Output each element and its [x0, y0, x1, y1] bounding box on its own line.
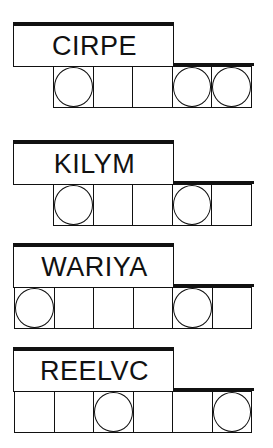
letter-cell[interactable] [133, 287, 173, 329]
cell-row-top-border [173, 63, 254, 66]
word-puzzle: KILYM [0, 140, 273, 250]
word-puzzle: CIRPE [0, 22, 273, 132]
answer-cells [14, 287, 252, 329]
answer-cells [53, 66, 252, 108]
circled-letter-cell[interactable] [93, 391, 133, 433]
cell-row-top-border [173, 181, 254, 184]
circled-letter-cell[interactable] [172, 184, 212, 226]
circled-letter-cell[interactable] [211, 66, 252, 108]
cell-row-top-border [173, 388, 254, 391]
letter-cell[interactable] [132, 66, 172, 108]
circled-letter-cell[interactable] [212, 391, 253, 433]
circled-letter-cell[interactable] [53, 184, 93, 226]
letter-cell[interactable] [54, 391, 94, 433]
circled-letter-cell[interactable] [172, 287, 212, 329]
circled-letter-cell[interactable] [53, 66, 93, 108]
letter-cell[interactable] [93, 287, 133, 329]
circled-letter-cell[interactable] [14, 287, 54, 329]
scrambled-word: WARIYA [39, 252, 148, 283]
letter-cell[interactable] [211, 184, 252, 226]
scrambled-word: KILYM [52, 149, 136, 180]
answer-cells [14, 391, 252, 433]
scrambled-word-box: CIRPE [13, 22, 174, 67]
letter-cell[interactable] [93, 66, 133, 108]
scrambled-word: CIRPE [50, 31, 137, 62]
letter-cell[interactable] [133, 391, 173, 433]
word-puzzle: WARIYA [0, 243, 273, 353]
scrambled-word-box: WARIYA [13, 243, 174, 288]
scrambled-word-box: KILYM [13, 140, 174, 185]
letter-cell[interactable] [172, 391, 212, 433]
letter-cell[interactable] [132, 184, 172, 226]
answer-cells [53, 184, 252, 226]
cell-row-top-border [173, 284, 254, 287]
letter-cell[interactable] [212, 287, 253, 329]
letter-cell[interactable] [54, 287, 94, 329]
circled-letter-cell[interactable] [172, 66, 212, 108]
letter-cell[interactable] [14, 391, 54, 433]
word-puzzle: REELVC [0, 347, 273, 448]
letter-cell[interactable] [93, 184, 133, 226]
scrambled-word-box: REELVC [13, 347, 174, 392]
scrambled-word: REELVC [38, 356, 149, 387]
